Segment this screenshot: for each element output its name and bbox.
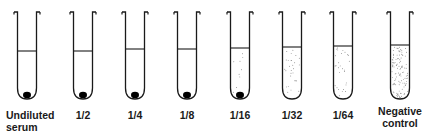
agglutination-pellet xyxy=(23,92,31,99)
tube-outline xyxy=(330,12,356,99)
tube-outline xyxy=(227,12,253,99)
tube-label-line1: Negative xyxy=(378,105,422,117)
agglutination-pellet xyxy=(131,92,139,99)
tube-label-line2: serum xyxy=(6,121,54,133)
suspension-dots xyxy=(392,47,409,98)
agglutination-pellet xyxy=(79,92,87,99)
tube-label: 1/2 xyxy=(76,109,91,121)
tube-label: Undilutedserum xyxy=(6,109,54,133)
test-tube xyxy=(279,12,305,99)
tube-label-line1: 1/64 xyxy=(333,109,353,121)
test-tube xyxy=(227,12,253,99)
test-tube xyxy=(70,12,96,99)
tube-label-line1: 1/8 xyxy=(180,109,195,121)
tube-outline xyxy=(122,12,148,99)
tube-label-line1: 1/2 xyxy=(76,109,91,121)
tube-label-line1: 1/32 xyxy=(282,109,302,121)
test-tube xyxy=(122,12,148,99)
tube-label: 1/8 xyxy=(180,109,195,121)
tube-outline xyxy=(70,12,96,99)
test-tube xyxy=(174,12,200,99)
agglutination-pellet xyxy=(183,92,191,99)
test-tube xyxy=(387,12,413,99)
test-tube xyxy=(14,12,40,99)
tube-label: 1/64 xyxy=(333,109,353,121)
tube-label-line1: 1/16 xyxy=(230,109,250,121)
tube-outline xyxy=(14,12,40,99)
tube-outline xyxy=(387,12,413,99)
test-tube xyxy=(330,12,356,99)
tube-outline xyxy=(174,12,200,99)
tube-outline xyxy=(279,12,305,99)
tube-label-line1: Undiluted xyxy=(6,109,54,121)
suspension-dots xyxy=(233,53,243,92)
suspension-dots xyxy=(284,50,299,93)
suspension-dots xyxy=(335,48,350,97)
tube-label-line2: control xyxy=(378,117,422,129)
tube-label: 1/32 xyxy=(282,109,302,121)
dilution-tubes-diagram xyxy=(0,0,431,135)
tube-label-line1: 1/4 xyxy=(128,109,143,121)
agglutination-pellet xyxy=(236,92,244,99)
tube-label: 1/4 xyxy=(128,109,143,121)
tube-label: Negativecontrol xyxy=(378,105,422,129)
tube-label: 1/16 xyxy=(230,109,250,121)
